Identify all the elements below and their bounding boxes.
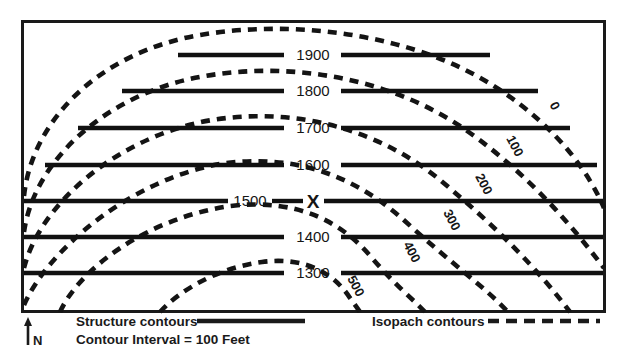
contour-map-svg: 1900 1800 1700 1600 1500 1400 1300 X 0 1…	[0, 0, 624, 358]
structure-label-1400: 1400	[296, 228, 329, 245]
map-figure: 1900 1800 1700 1600 1500 1400 1300 X 0 1…	[0, 0, 624, 358]
legend-structure-label: Structure contours	[76, 314, 198, 329]
structure-label-1500: 1500	[233, 192, 266, 209]
structure-label-1800: 1800	[296, 82, 329, 99]
north-arrow-label: N	[33, 333, 42, 348]
structure-label-1600: 1600	[296, 156, 329, 173]
legend-isopach-label: Isopach contours	[372, 314, 485, 329]
well-marker-x: X	[307, 191, 320, 212]
structure-label-1300: 1300	[296, 264, 329, 281]
structure-label-1700: 1700	[296, 119, 329, 136]
legend-interval-label: Contour Interval = 100 Feet	[76, 332, 250, 347]
structure-label-1900: 1900	[296, 46, 329, 63]
